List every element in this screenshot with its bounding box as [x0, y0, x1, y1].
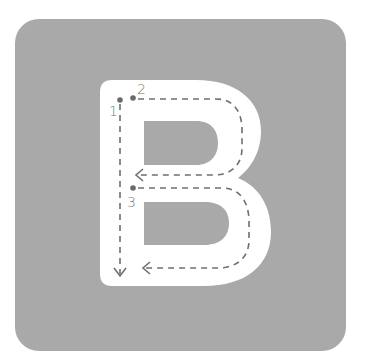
letter-b-tracing-diagram: 1 2 3: [0, 0, 375, 353]
stroke-3-number: 3: [127, 194, 136, 210]
stroke-2-number: 2: [137, 81, 146, 97]
letter-tracing-tile: 1 2 3: [0, 0, 375, 353]
stroke-1-number: 1: [109, 103, 118, 119]
stroke-3-start-dot: [130, 185, 136, 191]
stroke-2-start-dot: [130, 95, 136, 101]
stroke-1-start-dot: [117, 97, 123, 103]
